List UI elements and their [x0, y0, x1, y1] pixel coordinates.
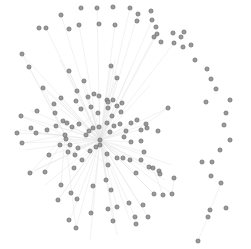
- graph-node[interactable]: [77, 23, 81, 27]
- graph-node[interactable]: [208, 208, 212, 212]
- graph-node[interactable]: [88, 149, 92, 153]
- graph-node[interactable]: [72, 166, 76, 170]
- graph-node[interactable]: [113, 23, 117, 27]
- graph-node[interactable]: [115, 104, 119, 108]
- graph-node[interactable]: [111, 98, 115, 102]
- graph-node[interactable]: [134, 222, 138, 226]
- graph-node[interactable]: [172, 41, 176, 45]
- graph-node[interactable]: [142, 150, 146, 154]
- graph-node[interactable]: [179, 35, 183, 39]
- graph-node[interactable]: [58, 143, 62, 147]
- graph-node[interactable]: [91, 184, 95, 188]
- graph-node[interactable]: [124, 129, 128, 133]
- graph-node[interactable]: [115, 205, 119, 209]
- graph-node[interactable]: [29, 126, 33, 130]
- graph-node[interactable]: [97, 94, 101, 98]
- graph-node[interactable]: [74, 226, 78, 230]
- graph-node[interactable]: [105, 121, 109, 125]
- graph-node[interactable]: [82, 79, 86, 83]
- graph-node[interactable]: [134, 171, 138, 175]
- graph-node[interactable]: [106, 106, 110, 110]
- graph-node[interactable]: [152, 192, 156, 196]
- graph-node[interactable]: [67, 218, 71, 222]
- graph-node[interactable]: [171, 31, 175, 35]
- graph-node[interactable]: [43, 170, 47, 174]
- graph-node[interactable]: [222, 123, 226, 127]
- graph-node[interactable]: [76, 146, 80, 150]
- graph-node[interactable]: [181, 45, 185, 49]
- graph-node[interactable]: [75, 89, 79, 93]
- graph-node[interactable]: [89, 211, 93, 215]
- graph-node[interactable]: [106, 207, 110, 211]
- graph-node[interactable]: [34, 131, 38, 135]
- graph-node[interactable]: [70, 125, 74, 129]
- graph-node[interactable]: [228, 98, 232, 102]
- graph-node[interactable]: [61, 119, 65, 123]
- graph-node[interactable]: [67, 69, 71, 73]
- graph-node[interactable]: [65, 121, 69, 125]
- graph-node[interactable]: [139, 128, 143, 132]
- graph-node[interactable]: [154, 25, 158, 29]
- graph-node[interactable]: [104, 178, 108, 182]
- graph-node[interactable]: [80, 158, 84, 162]
- graph-node[interactable]: [68, 143, 72, 147]
- graph-node[interactable]: [79, 6, 83, 10]
- graph-node[interactable]: [218, 148, 222, 152]
- graph-node[interactable]: [98, 143, 102, 147]
- graph-node[interactable]: [74, 99, 78, 103]
- graph-node[interactable]: [120, 101, 124, 105]
- graph-node[interactable]: [206, 215, 210, 219]
- graph-node[interactable]: [20, 141, 24, 145]
- graph-node[interactable]: [135, 19, 139, 23]
- graph-node[interactable]: [228, 138, 232, 142]
- graph-node[interactable]: [110, 114, 114, 118]
- graph-node[interactable]: [224, 111, 228, 115]
- graph-node[interactable]: [209, 174, 213, 178]
- graph-node[interactable]: [170, 192, 174, 196]
- graph-node[interactable]: [45, 128, 49, 132]
- hub-node[interactable]: [63, 133, 67, 137]
- graph-node[interactable]: [200, 160, 204, 164]
- graph-node[interactable]: [128, 158, 132, 162]
- graph-node[interactable]: [136, 12, 140, 16]
- graph-node[interactable]: [105, 152, 109, 156]
- graph-node[interactable]: [129, 140, 133, 144]
- graph-node[interactable]: [64, 137, 68, 141]
- graph-node[interactable]: [209, 77, 213, 81]
- graph-node[interactable]: [150, 18, 154, 22]
- graph-node[interactable]: [139, 139, 143, 143]
- graph-node[interactable]: [73, 153, 77, 157]
- graph-node[interactable]: [193, 58, 197, 62]
- graph-node[interactable]: [133, 215, 137, 219]
- graph-node[interactable]: [86, 95, 90, 99]
- graph-node[interactable]: [151, 166, 155, 170]
- graph-node[interactable]: [149, 9, 153, 13]
- graph-node[interactable]: [37, 26, 41, 30]
- graph-node[interactable]: [89, 105, 93, 109]
- graph-node[interactable]: [91, 126, 95, 130]
- graph-node[interactable]: [52, 102, 56, 106]
- graph-node[interactable]: [121, 156, 125, 160]
- graph-node[interactable]: [56, 198, 60, 202]
- graph-node[interactable]: [111, 219, 115, 223]
- graph-node[interactable]: [44, 26, 48, 30]
- graph-node[interactable]: [166, 106, 170, 110]
- graph-node[interactable]: [87, 129, 91, 133]
- graph-node[interactable]: [147, 165, 151, 169]
- graph-node[interactable]: [127, 201, 131, 205]
- graph-node[interactable]: [96, 111, 100, 115]
- graph-node[interactable]: [118, 122, 122, 126]
- graph-node[interactable]: [28, 171, 32, 175]
- graph-node[interactable]: [109, 64, 113, 68]
- graph-node[interactable]: [205, 67, 209, 71]
- graph-node[interactable]: [144, 122, 148, 126]
- graph-node[interactable]: [106, 100, 110, 104]
- graph-node[interactable]: [59, 96, 63, 100]
- graph-node[interactable]: [111, 5, 115, 9]
- graph-node[interactable]: [108, 130, 112, 134]
- graph-node[interactable]: [54, 124, 58, 128]
- graph-node[interactable]: [84, 133, 88, 137]
- graph-node[interactable]: [158, 172, 162, 176]
- graph-node[interactable]: [20, 52, 24, 56]
- graph-node[interactable]: [97, 22, 101, 26]
